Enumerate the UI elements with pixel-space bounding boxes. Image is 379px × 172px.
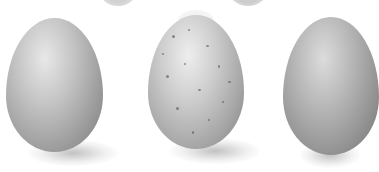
speck <box>176 107 179 110</box>
speck <box>188 29 190 31</box>
egg-right <box>283 17 379 155</box>
speck <box>218 65 220 68</box>
speck <box>198 89 201 91</box>
speck <box>184 63 186 65</box>
speck <box>228 81 231 83</box>
speck <box>206 45 209 47</box>
speck <box>222 101 224 103</box>
egg-center <box>148 15 244 149</box>
speck <box>192 131 194 134</box>
egg-left <box>6 18 103 152</box>
partial-egg-top-left <box>98 0 138 6</box>
speck <box>166 75 169 78</box>
speck <box>162 53 164 55</box>
speck <box>208 119 210 121</box>
partial-egg-top-right <box>228 0 268 6</box>
speck <box>172 35 175 38</box>
